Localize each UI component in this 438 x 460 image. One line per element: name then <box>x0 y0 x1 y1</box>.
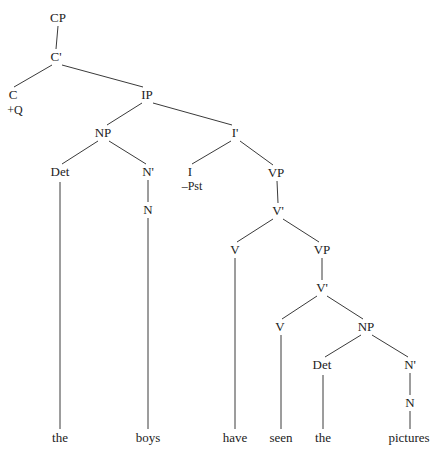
node-label-nbar2: N' <box>404 358 416 372</box>
terminal-label-t_boys: boys <box>136 431 161 445</box>
node-label-vp2: VP <box>314 243 331 257</box>
node-label-np2: NP <box>358 320 375 334</box>
branch-cbar-to-ip <box>62 65 143 87</box>
branch-ip-to-ibar <box>153 103 232 125</box>
node-label-vbar1: V' <box>272 204 284 218</box>
node-label-i: I <box>188 165 192 179</box>
node-label-ip: IP <box>141 88 153 102</box>
node-label-c: C <box>9 88 18 102</box>
branch-vbar1-to-v1 <box>237 219 273 242</box>
branch-lines <box>14 26 410 429</box>
branch-ibar-to-vp1 <box>240 141 273 165</box>
node-label-n1: N <box>143 203 152 217</box>
branch-np1-to-nbar1 <box>109 141 146 164</box>
node-label-nbar1: N' <box>142 165 154 179</box>
node-label-v2: V <box>275 320 284 334</box>
branch-vp1-to-vbar1 <box>277 181 278 203</box>
branch-vbar2-to-v2 <box>282 296 317 319</box>
syntax-tree-figure: CPC'C+QIPNPI'DetN'I–PstVPNV'VVPV'VNPDetN… <box>0 0 438 460</box>
node-label-det2: Det <box>313 358 332 372</box>
node-label-vbar2: V' <box>316 281 328 295</box>
node-label-ibar: I' <box>232 126 239 140</box>
branch-np2-to-nbar2 <box>372 335 408 357</box>
node-label-v1: V <box>230 243 239 257</box>
branch-vbar1-to-vp2 <box>283 219 319 242</box>
node-label-cbar: C' <box>50 50 61 64</box>
branch-np2-to-det2 <box>325 335 361 357</box>
terminal-label-t_seen: seen <box>269 431 292 445</box>
branch-np1-to-det1 <box>62 141 98 164</box>
node-label-np1: NP <box>95 126 112 140</box>
tree-branch-layer <box>0 0 438 460</box>
terminal-label-t_the1: the <box>52 431 68 445</box>
branch-ip-to-np1 <box>107 103 142 125</box>
terminal-label-t_have: have <box>223 431 248 445</box>
branch-vbar2-to-np2 <box>327 296 363 319</box>
branch-ibar-to-i <box>192 141 231 164</box>
node-label-det1: Det <box>51 165 70 179</box>
node-label-vp1: VP <box>268 166 285 180</box>
node-label-cp: CP <box>50 11 66 25</box>
node-label-c_feature: +Q <box>7 103 22 117</box>
node-label-i_feature: –Pst <box>182 179 203 193</box>
terminal-label-t_pictures: pictures <box>388 431 429 445</box>
branch-cp-to-cbar <box>56 26 58 49</box>
branch-cbar-to-c <box>14 65 52 87</box>
node-label-n2: N <box>405 396 414 410</box>
terminal-label-t_the2: the <box>315 431 331 445</box>
